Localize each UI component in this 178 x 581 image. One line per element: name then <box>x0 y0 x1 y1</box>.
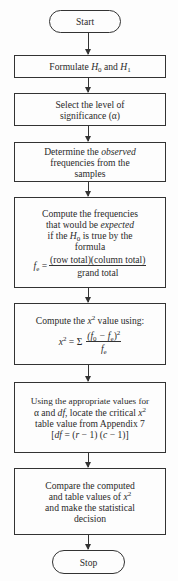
text: , locate the critical <box>65 407 138 418</box>
step-determine-observed: Determine the observed frequencies from … <box>14 142 166 182</box>
text: and table values of <box>49 491 124 502</box>
emphasis-expected: expected <box>101 219 135 230</box>
superscript: 2 <box>128 490 132 498</box>
text: − 1) ( <box>79 429 103 440</box>
step-select-significance: Select the level of significance (α) <box>14 93 166 126</box>
superscript: 2 <box>143 406 147 414</box>
h1-subscript: 1 <box>127 66 131 74</box>
step-text-line: table value from Appendix 7 <box>35 418 145 429</box>
step-text-line: significance (α) <box>60 110 120 121</box>
arrow-4-to-5 <box>88 288 89 302</box>
fraction: (f0 − fe)2 fe <box>86 330 121 354</box>
text: and <box>102 61 121 72</box>
step-text-line: Using the appropriate values for <box>31 396 149 407</box>
text: value using: <box>95 315 144 326</box>
text: Determine the <box>44 146 101 157</box>
subscript: e <box>104 348 107 356</box>
text: if the <box>47 230 69 241</box>
text: − 1)] <box>107 429 128 440</box>
step-compare-and-decide: Compare the computed and table values of… <box>14 468 166 535</box>
text: Formulate <box>49 61 91 72</box>
step-text-line: Compute the frequencies <box>42 208 138 219</box>
step-text-line: and make the statistical <box>45 502 135 513</box>
alpha-text: α and <box>34 407 58 418</box>
text: is true by the <box>80 230 132 241</box>
step-text-line: samples <box>75 168 106 179</box>
equals-sign: = <box>39 260 47 271</box>
df-symbol: df <box>58 407 65 418</box>
text: Compute the <box>36 315 88 326</box>
denominator: grand total <box>77 266 118 278</box>
step-text-line: Select the level of <box>56 99 125 110</box>
df-symbol: df <box>55 429 62 440</box>
stop-terminal: Stop <box>52 550 125 574</box>
fe-symbol: − f <box>97 330 111 341</box>
arrow-3-to-4 <box>88 182 89 196</box>
h0-symbol: H <box>70 230 77 241</box>
arrow-start-to-formulate <box>88 33 89 54</box>
superscript: 2 <box>117 329 121 337</box>
emphasis-observed: observed <box>101 146 136 157</box>
numerator: (row total)(column total) <box>49 254 146 266</box>
start-label: Start <box>76 16 94 27</box>
arrow-6-to-7 <box>88 453 89 467</box>
step-text-line: formula <box>75 241 105 252</box>
expected-frequency-formula: fe = (row total)(column total) grand tot… <box>34 254 147 278</box>
step-formulate-hypotheses: Formulate H0 and H1 <box>14 55 166 78</box>
step-text-line: Compare the computed <box>45 480 135 491</box>
step-text-line: decision <box>74 513 106 524</box>
step-compute-chi-square: Compute the x2 value using: x2 = Σ (f0 −… <box>14 303 166 365</box>
step-text-line: frequencies from the <box>50 157 129 168</box>
arrow-2-to-3 <box>88 126 89 141</box>
step-locate-critical-value: Using the appropriate values for α and d… <box>14 382 166 453</box>
step-compute-expected: Compute the frequencies that would be ex… <box>14 197 166 288</box>
text: = ( <box>62 429 75 440</box>
arrow-5-to-6 <box>88 365 89 381</box>
text: that would be <box>46 219 101 230</box>
arrow-1-to-2 <box>88 78 89 92</box>
arrow-7-to-stop <box>88 535 89 549</box>
fraction: (row total)(column total) grand total <box>49 254 146 278</box>
start-terminal: Start <box>49 10 121 33</box>
sum-sign: = Σ <box>66 336 82 347</box>
chi-square-formula: x2 = Σ (f0 − fe)2 fe <box>59 330 122 354</box>
stop-label: Stop <box>80 557 98 568</box>
